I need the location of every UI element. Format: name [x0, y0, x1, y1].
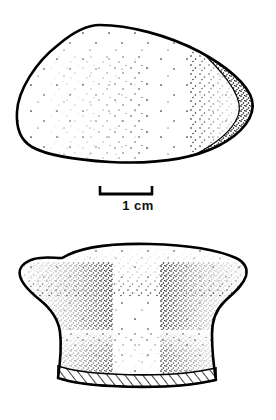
upper-artifact-figure — [17, 24, 260, 170]
scale-bar — [99, 186, 153, 195]
caption-fragment — [14, 410, 264, 419]
illustration-plate: 1 cm — [0, 0, 276, 420]
lower-artifact-figure — [18, 243, 250, 398]
scale-bar-label: 1 cm — [0, 198, 276, 213]
